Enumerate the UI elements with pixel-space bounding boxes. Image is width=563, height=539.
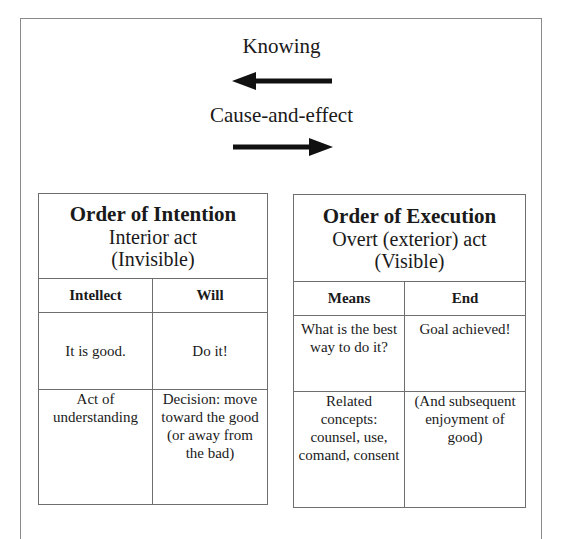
intention-subtitle: Interior act	[43, 226, 263, 248]
order-of-intention-table: Order of Intention Interior act (Invisib…	[38, 193, 268, 505]
intention-title: Order of Intention	[43, 203, 263, 226]
column-header-means: Means	[294, 282, 405, 316]
intellect-cell-2: Act of understanding	[39, 390, 153, 505]
intention-visibility: (Invisible)	[43, 248, 263, 270]
end-cell-2: (And subsequent enjoyment of good)	[405, 392, 526, 508]
intention-header: Order of Intention Interior act (Invisib…	[39, 194, 268, 279]
means-cell-1: What is the best way to do it?	[294, 316, 405, 392]
knowing-label: Knowing	[0, 34, 563, 59]
end-cell-1: Goal achieved!	[405, 316, 526, 392]
column-header-will: Will	[153, 279, 268, 313]
intellect-cell-1: It is good.	[39, 313, 153, 390]
execution-title: Order of Execution	[298, 205, 521, 228]
order-of-execution-table: Order of Execution Overt (exterior) act …	[293, 194, 526, 508]
execution-header: Order of Execution Overt (exterior) act …	[294, 195, 526, 282]
means-cell-2: Related concepts: counsel, use, comand, …	[294, 392, 405, 508]
will-cell-1: Do it!	[153, 313, 268, 390]
will-cell-2: Decision: move toward the good (or away …	[153, 390, 268, 505]
execution-visibility: (Visible)	[298, 250, 521, 272]
arrow-right-icon	[233, 138, 335, 156]
cause-and-effect-label: Cause-and-effect	[0, 103, 563, 128]
execution-subtitle: Overt (exterior) act	[298, 228, 521, 250]
arrow-left-icon	[232, 72, 334, 90]
column-header-intellect: Intellect	[39, 279, 153, 313]
column-header-end: End	[405, 282, 526, 316]
